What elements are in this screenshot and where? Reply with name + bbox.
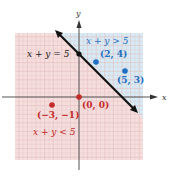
point-2-4-label: (2, 4) <box>100 49 127 60</box>
x-axis-label: x <box>162 93 167 102</box>
point-2-4 <box>93 59 99 65</box>
point-0-0 <box>76 94 82 100</box>
region-below-label: x + y < 5 <box>33 127 76 137</box>
y-axis-arrow-icon <box>77 20 82 28</box>
region-above-label: x + y > 5 <box>86 36 129 46</box>
y-axis-label: y <box>75 9 81 18</box>
plot-area <box>10 24 152 166</box>
x-axis-arrow-icon <box>150 95 158 100</box>
line-label: x + y = 5 <box>27 49 70 59</box>
inequality-graph: x y x + y = 5 x + y > 5 (2, 4) (5, 3) (0… <box>0 0 175 176</box>
point-0-0-label: (0, 0) <box>82 100 109 111</box>
intercept-point <box>76 51 81 56</box>
point-neg3-neg1-label: (−3, −1) <box>37 110 79 121</box>
point-5-3 <box>122 68 128 74</box>
point-5-3-label: (5, 3) <box>117 75 144 86</box>
point-neg3-neg1 <box>49 102 55 108</box>
